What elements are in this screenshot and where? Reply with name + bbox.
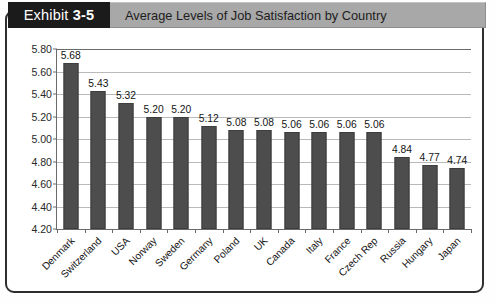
y-tick-label: 5.60 bbox=[31, 66, 52, 78]
x-axis-label: USA bbox=[109, 235, 132, 258]
bar-value-label: 5.20 bbox=[171, 104, 191, 115]
x-tick-mark bbox=[250, 229, 251, 233]
bar-slot: 4.77Hungary bbox=[416, 49, 444, 229]
x-axis-label: Japan bbox=[435, 235, 462, 262]
bar-value-label: 5.43 bbox=[88, 78, 108, 89]
bar-value-label: 4.74 bbox=[447, 155, 467, 166]
x-tick-mark bbox=[416, 229, 417, 233]
bar-value-label: 5.08 bbox=[226, 117, 246, 128]
exhibit-badge-text: Exhibit 3-5 bbox=[24, 7, 95, 23]
bar-slot: 5.32USA bbox=[112, 49, 140, 229]
bar-slot: 5.06Czech Rep bbox=[361, 49, 389, 229]
bar[interactable] bbox=[91, 91, 106, 229]
bar-slot: 5.68Denmark bbox=[57, 49, 85, 229]
bar[interactable] bbox=[256, 130, 271, 229]
bar[interactable] bbox=[146, 117, 161, 230]
bar[interactable] bbox=[422, 165, 437, 229]
bar-value-label: 4.77 bbox=[420, 152, 440, 163]
exhibit-number: 3-5 bbox=[73, 7, 95, 23]
y-tick-label: 5.40 bbox=[31, 88, 52, 100]
y-tick-label: 4.60 bbox=[31, 178, 52, 190]
bar-slot: 4.74Japan bbox=[443, 49, 471, 229]
y-tick-label: 4.80 bbox=[31, 156, 52, 168]
bar-value-label: 5.06 bbox=[337, 119, 357, 130]
bar-value-label: 5.06 bbox=[309, 119, 329, 130]
x-tick-mark bbox=[140, 229, 141, 233]
x-tick-mark bbox=[305, 229, 306, 233]
bar[interactable] bbox=[367, 132, 382, 229]
x-tick-mark bbox=[57, 229, 58, 233]
bar[interactable] bbox=[229, 130, 244, 229]
bar[interactable] bbox=[339, 132, 354, 229]
bar-value-label: 5.06 bbox=[364, 119, 384, 130]
bar-slot: 4.84Russia bbox=[388, 49, 416, 229]
bar-slot: 5.20Sweden bbox=[167, 49, 195, 229]
x-axis-label: Poland bbox=[212, 235, 242, 265]
bar[interactable] bbox=[284, 132, 299, 229]
plot-wrapper: 5.805.605.405.205.004.804.604.404.20 5.6… bbox=[5, 10, 484, 293]
bar-series: 5.68Denmark5.43Switzerland5.32USA5.20Nor… bbox=[57, 49, 471, 229]
bar-slot: 5.20Norway bbox=[140, 49, 168, 229]
x-tick-mark bbox=[361, 229, 362, 233]
bar-slot: 5.08UK bbox=[250, 49, 278, 229]
figure-title: Average Levels of Job Satisfaction by Co… bbox=[125, 2, 387, 28]
x-tick-mark bbox=[443, 229, 444, 233]
y-tick-label: 4.40 bbox=[31, 201, 52, 213]
x-tick-mark bbox=[471, 229, 472, 233]
bar[interactable] bbox=[450, 168, 465, 229]
bar[interactable] bbox=[312, 132, 327, 229]
bar-value-label: 5.12 bbox=[199, 113, 219, 124]
bar-slot: 5.08Poland bbox=[223, 49, 251, 229]
bar-slot: 5.43Switzerland bbox=[85, 49, 113, 229]
bar-slot: 5.06Italy bbox=[305, 49, 333, 229]
plot-area: 5.805.605.405.205.004.804.604.404.20 5.6… bbox=[56, 49, 471, 230]
exhibit-figure: Exhibit 3-5 Average Levels of Job Satisf… bbox=[0, 0, 495, 305]
bar-slot: 5.06Canada bbox=[278, 49, 306, 229]
bar-value-label: 5.08 bbox=[254, 117, 274, 128]
bar[interactable] bbox=[118, 103, 133, 229]
bar-slot: 5.06France bbox=[333, 49, 361, 229]
x-tick-mark bbox=[278, 229, 279, 233]
figure-header: Exhibit 3-5 Average Levels of Job Satisf… bbox=[0, 0, 495, 30]
x-axis-label: UK bbox=[252, 235, 270, 253]
y-tick-label: 5.20 bbox=[31, 111, 52, 123]
x-tick-mark bbox=[112, 229, 113, 233]
x-tick-mark bbox=[223, 229, 224, 233]
bar[interactable] bbox=[201, 126, 216, 230]
x-tick-mark bbox=[195, 229, 196, 233]
bar-value-label: 5.20 bbox=[144, 104, 164, 115]
bar-slot: 5.12Germany bbox=[195, 49, 223, 229]
x-tick-mark bbox=[333, 229, 334, 233]
y-tick-label: 5.80 bbox=[31, 43, 52, 55]
exhibit-label: Exhibit bbox=[24, 7, 69, 23]
x-tick-mark bbox=[388, 229, 389, 233]
x-tick-mark bbox=[85, 229, 86, 233]
bar[interactable] bbox=[394, 157, 409, 229]
bar-value-label: 5.06 bbox=[282, 119, 302, 130]
y-tick-label: 4.20 bbox=[31, 223, 52, 235]
x-axis-label: Canada bbox=[264, 235, 297, 268]
bar[interactable] bbox=[174, 117, 189, 230]
y-tick-label: 5.00 bbox=[31, 133, 52, 145]
bar-value-label: 4.84 bbox=[392, 144, 412, 155]
bar[interactable] bbox=[63, 63, 78, 230]
exhibit-badge: Exhibit 3-5 bbox=[8, 2, 110, 28]
x-tick-mark bbox=[167, 229, 168, 233]
x-axis-label: Italy bbox=[304, 235, 325, 256]
bar-value-label: 5.32 bbox=[116, 90, 136, 101]
bar-value-label: 5.68 bbox=[61, 50, 81, 61]
